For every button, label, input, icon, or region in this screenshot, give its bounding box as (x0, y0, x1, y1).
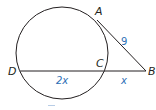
length-label-cb: x (120, 75, 127, 86)
faint-mark (48, 105, 55, 106)
length-label-dc: 2x (56, 75, 68, 86)
point-label-c: C (96, 57, 104, 70)
point-label-d: D (8, 65, 16, 78)
length-label-ab: 9 (121, 36, 127, 47)
point-label-b: B (148, 65, 156, 78)
point-label-a: A (94, 5, 103, 18)
geometry-figure: A B C D 9 2x x (0, 0, 156, 110)
